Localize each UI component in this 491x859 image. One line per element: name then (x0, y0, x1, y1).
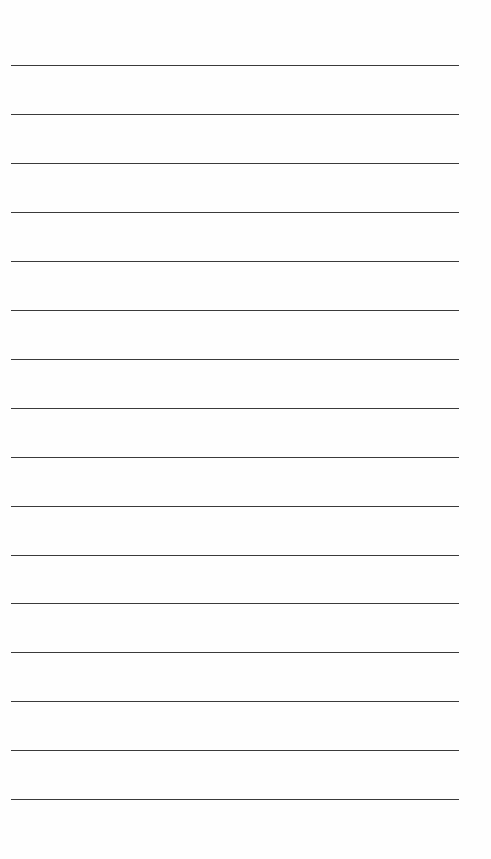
ruled-line (11, 261, 459, 262)
ruled-line (11, 750, 459, 751)
ruled-line (11, 457, 459, 458)
ruled-line (11, 701, 459, 702)
ruled-line (11, 359, 459, 360)
ruled-line (11, 163, 459, 164)
ruled-line (11, 603, 459, 604)
ruled-line (11, 799, 459, 800)
ruled-line (11, 408, 459, 409)
ruled-line (11, 114, 459, 115)
ruled-line (11, 212, 459, 213)
ruled-line (11, 555, 459, 556)
ruled-page (0, 0, 491, 859)
ruled-line (11, 506, 459, 507)
ruled-line (11, 310, 459, 311)
ruled-line (11, 65, 459, 66)
ruled-line (11, 652, 459, 653)
